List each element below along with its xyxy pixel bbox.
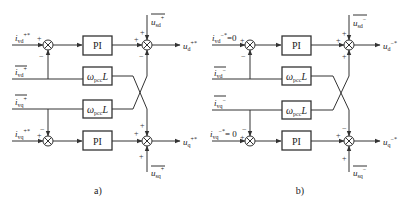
sign: + (342, 29, 347, 38)
uq-output-label: uq−* (383, 136, 397, 148)
left-top-summer (43, 40, 53, 50)
sign: + (134, 129, 139, 138)
sign: − (40, 125, 45, 134)
pi-bottom-label: PI (292, 136, 301, 147)
pi-bottom-label: PI (93, 136, 102, 147)
sign: + (342, 52, 347, 61)
id-fb-label: ivd+ (15, 66, 28, 78)
panel-a: PI PI (12, 14, 197, 197)
sign: − (242, 125, 247, 134)
panel-b: PI PI ωpccL ωpccL ivd−*=0 (210, 15, 397, 197)
sign: + (140, 28, 145, 37)
caption-b: b) (296, 185, 304, 197)
sign: − (342, 124, 347, 133)
right-bottom-summer (142, 136, 152, 146)
iq-ref-label: ivq+* (15, 128, 30, 140)
sign: + (134, 35, 139, 44)
left-bottom-summer (43, 136, 53, 146)
sign: + (336, 131, 341, 140)
iq-fb-label: ivq+ (15, 96, 28, 108)
id-fb-label: ivd− (214, 67, 227, 79)
right-bottom-summer (344, 136, 354, 146)
sign: + (37, 34, 42, 43)
sign: − (139, 52, 144, 61)
control-block-diagram: PI PI (0, 0, 406, 209)
pi-top-label: PI (292, 40, 301, 51)
usq-label: usq+ (151, 166, 165, 179)
pi-top-label: PI (93, 40, 102, 51)
left-top-summer (245, 40, 255, 50)
right-top-summer (142, 40, 152, 50)
iq-fb-label: ivq− (214, 97, 227, 109)
sign: + (140, 121, 145, 130)
usd-label: usd+ (151, 15, 165, 28)
usd-label: usd− (353, 16, 367, 29)
sign: + (240, 36, 245, 45)
left-bottom-summer (245, 136, 255, 146)
right-top-summer (344, 40, 354, 50)
id-ref-label: ivd−*=0 (212, 32, 237, 44)
uq-output-label: uq+* (183, 136, 197, 148)
sign: − (39, 52, 44, 61)
usq-label: usq− (353, 166, 367, 179)
ud-output-label: ud+* (183, 40, 197, 52)
sign: + (342, 154, 347, 163)
sign: − (241, 52, 246, 61)
sign: + (336, 36, 341, 45)
iq-ref-label: ivq−*= 0 (210, 128, 237, 140)
caption-a: a) (94, 185, 102, 197)
sign: + (139, 152, 144, 161)
id-ref-label: ivd+* (15, 32, 30, 44)
sign: + (240, 133, 245, 142)
ud-output-label: ud−* (383, 40, 397, 52)
